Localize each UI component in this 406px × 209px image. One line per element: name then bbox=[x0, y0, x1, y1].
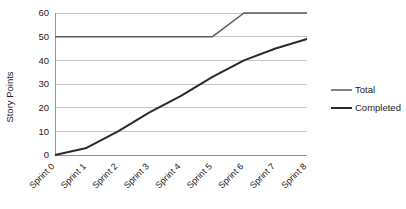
y-tick-label: 20 bbox=[38, 102, 49, 113]
y-tick-label: 10 bbox=[38, 126, 49, 137]
y-tick-label: 40 bbox=[38, 55, 49, 66]
y-tick-label: 0 bbox=[44, 149, 49, 160]
chart-container: 0102030405060 Sprint 0Sprint 1Sprint 2Sp… bbox=[0, 0, 406, 209]
y-tick-label: 60 bbox=[38, 7, 49, 18]
burnup-line-chart: 0102030405060 Sprint 0Sprint 1Sprint 2Sp… bbox=[0, 0, 406, 209]
y-tick-label: 30 bbox=[38, 78, 49, 89]
y-tick-label: 50 bbox=[38, 31, 49, 42]
legend-label-total[interactable]: Total bbox=[355, 84, 375, 95]
y-axis-title: Story Points bbox=[4, 71, 15, 122]
legend-label-completed[interactable]: Completed bbox=[355, 102, 401, 113]
